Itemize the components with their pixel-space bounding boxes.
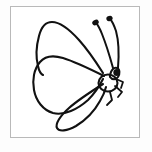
page-root <box>0 0 152 152</box>
upper-wing-outline <box>37 22 103 75</box>
tail-wing-outline <box>57 84 106 130</box>
antenna-left <box>96 23 113 68</box>
lower-wing-outline <box>33 56 104 113</box>
butterfly-illustration <box>0 0 152 152</box>
leg-lower <box>107 92 112 105</box>
eye-icon <box>113 69 119 76</box>
